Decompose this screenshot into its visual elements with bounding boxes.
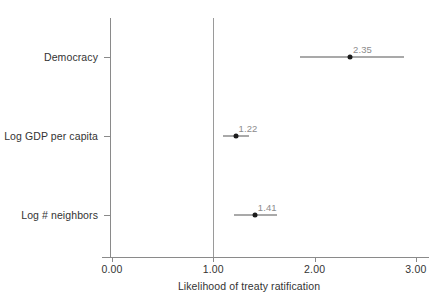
y-axis-category-label: Log GDP per capita (4, 130, 98, 142)
y-axis-category-label: Log # neighbors (21, 209, 98, 221)
x-axis-tick (315, 257, 316, 262)
coefficient-plot-figure: 0.001.002.003.00 DemocracyLog GDP per ca… (0, 0, 442, 304)
x-axis-tick-label: 3.00 (405, 263, 426, 275)
y-axis-spine (110, 18, 111, 257)
estimate-point (348, 55, 353, 60)
x-axis-title: Likelihood of treaty ratification (0, 280, 442, 292)
x-axis-tick-label: 1.00 (203, 263, 224, 275)
x-axis-tick (416, 257, 417, 262)
estimate-value-label: 1.22 (239, 123, 258, 134)
y-axis-tick (104, 136, 110, 137)
x-axis-tick (213, 257, 214, 262)
estimate-point (233, 134, 238, 139)
x-axis-tick-label: 2.00 (304, 263, 325, 275)
estimate-value-label: 1.41 (258, 202, 277, 213)
x-axis-title-text: Likelihood of treaty ratification (178, 280, 320, 292)
y-axis-tick (104, 57, 110, 58)
x-axis-tick-label: 0.00 (101, 263, 122, 275)
y-axis-tick (104, 215, 110, 216)
reference-line-at-one (213, 18, 214, 257)
estimate-point (252, 213, 257, 218)
x-axis-spine (102, 257, 429, 258)
estimate-value-label: 2.35 (353, 44, 372, 55)
y-axis-category-label: Democracy (44, 51, 98, 63)
x-axis-tick (112, 257, 113, 262)
